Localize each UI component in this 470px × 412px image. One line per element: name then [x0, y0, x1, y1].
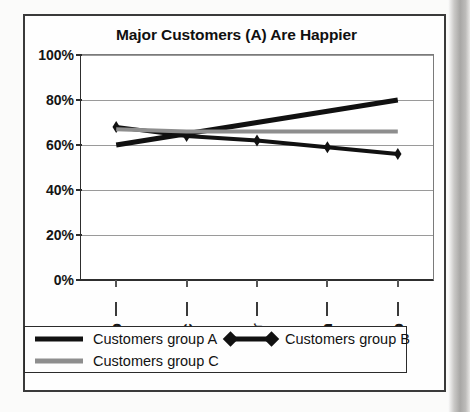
page-gutter-shadow	[448, 0, 470, 412]
chart-title: Major Customers (A) Are Happier	[25, 26, 448, 44]
y-tick-label: 20%	[46, 227, 74, 243]
x-tick-mark-outer	[115, 302, 117, 316]
x-tick-mark-outer	[397, 302, 399, 316]
y-tick-label: 60%	[46, 137, 74, 153]
legend-row-2: Customers group C	[25, 350, 408, 372]
y-tick-label: 100%	[38, 47, 74, 63]
y-tick-label: 40%	[46, 182, 74, 198]
x-tick-mark	[256, 280, 258, 287]
x-tick-mark-outer	[256, 302, 258, 316]
x-tick-mark	[115, 280, 117, 287]
legend-label: Customers group B	[285, 331, 410, 347]
legend-swatch-line-icon	[31, 328, 87, 350]
legend-swatch-line-diamond-icon	[223, 328, 279, 350]
series-marker-diamond	[253, 135, 260, 147]
legend-entry-customers-group-b[interactable]: Customers group B	[223, 328, 410, 350]
x-tick-mark	[397, 280, 399, 287]
legend-row-1: Customers group A Customers group B	[25, 328, 408, 350]
chart-legend: Customers group A Customers group B Cust…	[24, 326, 407, 373]
legend-label: Customers group C	[93, 353, 219, 369]
x-tick-mark-outer	[326, 302, 328, 316]
series-line	[116, 129, 398, 131]
legend-label: Customers group A	[93, 331, 217, 347]
plot-area: 0%20%40%60%80%100% SepDecMarJunSep	[80, 54, 434, 281]
x-tick-mark	[186, 280, 188, 287]
series-marker-diamond	[394, 148, 401, 160]
y-tick-label: 80%	[46, 92, 74, 108]
series-marker-diamond	[324, 141, 331, 153]
series-plot	[81, 55, 433, 280]
y-tick-label: 0%	[54, 272, 74, 288]
legend-entry-customers-group-a[interactable]: Customers group A	[31, 328, 217, 350]
legend-swatch-line-gray-icon	[31, 350, 87, 372]
x-tick-mark	[326, 280, 328, 287]
legend-entry-customers-group-c[interactable]: Customers group C	[31, 350, 219, 372]
x-tick-mark-outer	[186, 302, 188, 316]
